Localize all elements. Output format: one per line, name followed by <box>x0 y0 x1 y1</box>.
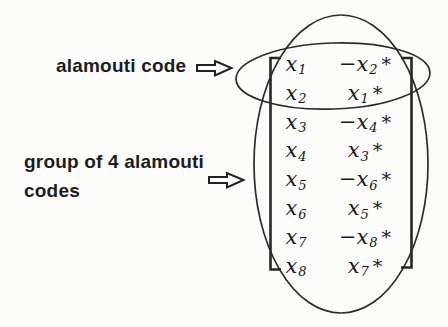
matrix-entry-base: x <box>285 81 297 105</box>
matrix-entry-subscript: 5 <box>361 207 369 222</box>
conjugate-star: * <box>382 168 392 190</box>
matrix-cell: x7* <box>326 254 404 279</box>
code-matrix: x1 −x2* x2 x1* x3 −x4* x4 x3* x5 −x6* x6… <box>276 50 404 281</box>
matrix-entry-base: x <box>285 196 297 220</box>
matrix-cell: −x4* <box>326 110 404 135</box>
matrix-entry-base: x <box>285 52 297 76</box>
matrix-entry-subscript: 7 <box>361 264 369 279</box>
matrix-row: x1 −x2* <box>276 50 404 79</box>
conjugate-star: * <box>382 53 392 75</box>
matrix-cell: x6 <box>276 196 316 221</box>
matrix-entry-subscript: 7 <box>298 235 306 250</box>
matrix-cell: −x2* <box>326 52 404 77</box>
matrix-entry-base: x <box>285 110 297 134</box>
conjugate-star: * <box>373 139 383 161</box>
matrix-entry-subscript: 1 <box>298 62 306 77</box>
matrix-cell: −x6* <box>326 167 404 192</box>
matrix-row: x8 x7* <box>276 252 404 281</box>
matrix-entry-subscript: 4 <box>369 120 377 135</box>
matrix-cell: x5* <box>326 196 404 221</box>
matrix-row: x6 x5* <box>276 194 404 223</box>
matrix-cell: x5 <box>276 167 316 192</box>
matrix-cell: x8 <box>276 254 316 279</box>
matrix-entry-subscript: 2 <box>298 91 306 106</box>
matrix-cell: x2 <box>276 81 316 106</box>
alamouti-code-diagram: alamouti code group of 4 alamouti codes … <box>0 0 448 327</box>
matrix-entry-base: −x <box>339 110 368 134</box>
matrix-row: x7 −x8* <box>276 223 404 252</box>
matrix-entry-subscript: 6 <box>298 207 306 222</box>
matrix-entry-base: x <box>348 254 360 278</box>
matrix-entry-base: x <box>285 138 297 162</box>
matrix-entry-base: x <box>285 225 297 249</box>
matrix-cell: x3 <box>276 110 316 135</box>
matrix-entry-subscript: 8 <box>369 235 377 250</box>
conjugate-star: * <box>373 255 383 277</box>
matrix-cell: x4 <box>276 138 316 163</box>
matrix-cell: x7 <box>276 225 316 250</box>
matrix-entry-subscript: 5 <box>298 178 306 193</box>
conjugate-star: * <box>382 111 392 133</box>
matrix-entry-subscript: 1 <box>361 91 369 106</box>
matrix-entry-base: −x <box>339 167 368 191</box>
matrix-cell: x3* <box>326 138 404 163</box>
matrix-entry-base: x <box>348 81 360 105</box>
matrix-row: x5 −x6* <box>276 166 404 195</box>
matrix-row: x3 −x4* <box>276 108 404 137</box>
matrix-entry-base: x <box>285 254 297 278</box>
matrix-row: x4 x3* <box>276 137 404 166</box>
right-arrow-icon <box>197 61 232 76</box>
label-group-of-4-alamouti-codes: group of 4 alamouti codes <box>24 147 220 205</box>
matrix-cell: −x8* <box>326 225 404 250</box>
matrix-entry-subscript: 4 <box>298 149 306 164</box>
conjugate-star: * <box>373 82 383 104</box>
matrix-entry-subscript: 8 <box>298 264 306 279</box>
matrix-entry-base: −x <box>339 225 368 249</box>
conjugate-star: * <box>373 197 383 219</box>
matrix-entry-base: x <box>348 196 360 220</box>
matrix-entry-base: −x <box>339 52 368 76</box>
matrix-entry-subscript: 6 <box>369 178 377 193</box>
matrix-entry-subscript: 3 <box>361 149 369 164</box>
matrix-row: x2 x1* <box>276 79 404 108</box>
matrix-entry-subscript: 2 <box>369 62 377 77</box>
matrix-entry-subscript: 3 <box>298 120 306 135</box>
matrix-cell: x1 <box>276 52 316 77</box>
label-alamouti-code: alamouti code <box>56 51 186 80</box>
matrix-entry-base: x <box>285 167 297 191</box>
conjugate-star: * <box>382 226 392 248</box>
matrix-entry-base: x <box>348 138 360 162</box>
matrix-cell: x1* <box>326 81 404 106</box>
